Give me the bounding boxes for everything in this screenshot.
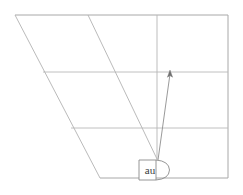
node-label: au bbox=[145, 164, 156, 176]
geometry-diagram: au bbox=[0, 0, 243, 195]
diagram-canvas: au bbox=[0, 0, 243, 195]
node-box-arc bbox=[156, 160, 170, 180]
inner-diagonal-line bbox=[88, 15, 157, 159]
left-diagonal-line bbox=[15, 15, 100, 178]
arrow-ray-line bbox=[158, 74, 170, 160]
